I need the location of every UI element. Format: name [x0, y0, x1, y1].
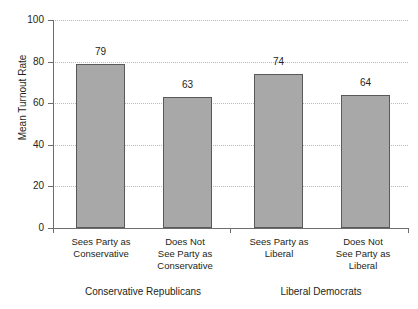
x-label-sees-party-as-liberal: Sees Party as Liberal: [236, 236, 322, 260]
x-label-line-2: Conservative: [58, 248, 144, 260]
group-label-conservative-republicans: Conservative Republicans: [58, 286, 228, 298]
bar-value-1: 79: [76, 47, 125, 57]
gridline-80: [53, 62, 408, 63]
bar-does-not-see-party-as-conservative: [163, 97, 212, 228]
bar-value-4: 64: [341, 78, 390, 88]
y-tick-100: [48, 20, 53, 21]
bar-value-2: 63: [163, 80, 212, 90]
bar-does-not-see-party-as-liberal: [341, 95, 390, 228]
x-tick-group-separator: [230, 228, 231, 233]
y-tick-label-0: 0: [38, 223, 44, 233]
x-label-line-1: Does Not: [142, 236, 228, 248]
x-axis-line: [53, 228, 409, 229]
y-tick-60: [48, 103, 53, 104]
x-label-line-2: Liberal: [236, 248, 322, 260]
x-label-line-1: Does Not: [320, 236, 406, 248]
bar-value-3: 74: [254, 57, 303, 67]
y-tick-40: [48, 145, 53, 146]
x-label-line-1: Sees Party as: [58, 236, 144, 248]
y-tick-label-40: 40: [33, 140, 44, 150]
x-tick-right-end: [408, 228, 409, 233]
group-label-liberal-democrats: Liberal Democrats: [236, 286, 406, 298]
x-label-line-2: See Party as: [142, 248, 228, 260]
y-axis-title: Mean Turnout Rate: [17, 38, 28, 158]
y-tick-label-20: 20: [33, 181, 44, 191]
x-tick-left-end: [53, 228, 54, 233]
y-tick-80: [48, 62, 53, 63]
x-label-line-3: Conservative: [142, 260, 228, 272]
y-tick-label-100: 100: [27, 15, 44, 25]
x-label-does-not-see-party-as-liberal: Does Not See Party as Liberal: [320, 236, 406, 272]
y-tick-label-60: 60: [33, 98, 44, 108]
x-label-does-not-see-party-as-conservative: Does Not See Party as Conservative: [142, 236, 228, 272]
x-label-sees-party-as-conservative: Sees Party as Conservative: [58, 236, 144, 260]
y-axis-line: [53, 20, 54, 229]
x-label-line-3: Liberal: [320, 260, 406, 272]
x-label-line-1: Sees Party as: [236, 236, 322, 248]
bar-sees-party-as-conservative: [76, 64, 125, 228]
gridline-100: [53, 20, 408, 21]
bar-sees-party-as-liberal: [254, 74, 303, 228]
y-tick-label-80: 80: [33, 57, 44, 67]
bar-chart-figure: 100 80 60 40 20 0 Mean Turnout Rate 79 6…: [0, 0, 418, 309]
y-tick-20: [48, 186, 53, 187]
x-label-line-2: See Party as: [320, 248, 406, 260]
